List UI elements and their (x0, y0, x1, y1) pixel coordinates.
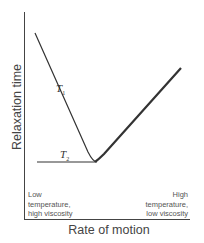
curve-label-t2: T2 (60, 148, 69, 162)
x-axis-label: Rate of motion (24, 223, 194, 237)
curve-label-t1: T1 (56, 82, 65, 96)
curve-t1-descending (35, 33, 97, 162)
curve-rising-branch (95, 68, 181, 162)
y-axis-label: Relaxation time (10, 52, 24, 162)
low-temperature-note: Low temperature, high viscosity (28, 190, 73, 219)
high-temperature-note: High temperature, low viscosity (145, 190, 188, 219)
